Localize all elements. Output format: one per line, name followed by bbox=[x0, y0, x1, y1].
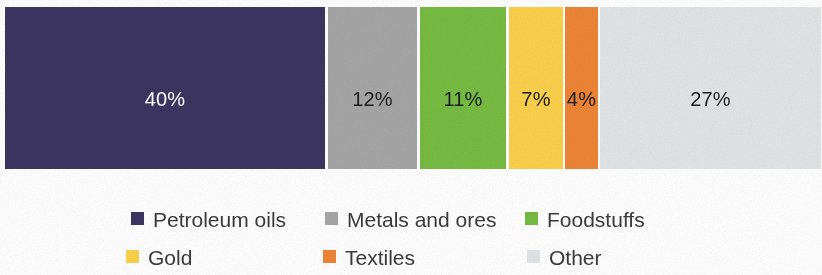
legend-swatch-icon bbox=[323, 250, 336, 263]
bar-segment-label: 40% bbox=[145, 89, 186, 109]
bar-segment-label: 11% bbox=[443, 89, 482, 109]
bar-segment-metals-and-ores[interactable]: 12% bbox=[328, 7, 420, 169]
legend-item-foodstuffs[interactable]: Foodstuffs bbox=[525, 200, 645, 236]
bar-segment-petroleum-oils[interactable]: 40% bbox=[5, 7, 328, 169]
legend-item-label: Gold bbox=[148, 247, 192, 268]
stacked-bar-chart: 40% 12% 11% 7% 4% 27% Petroleum oils bbox=[0, 0, 822, 275]
bar-segment-other[interactable]: 27% bbox=[600, 7, 821, 169]
bar-segment-foodstuffs[interactable]: 11% bbox=[420, 7, 509, 169]
legend-item-label: Textiles bbox=[345, 247, 415, 268]
bar-segment-gold[interactable]: 7% bbox=[509, 7, 565, 169]
bar-segment-label: 4% bbox=[567, 89, 596, 109]
legend-item-label: Metals and ores bbox=[347, 209, 496, 230]
legend-item-gold[interactable]: Gold bbox=[126, 238, 192, 274]
legend-swatch-icon bbox=[527, 250, 540, 263]
legend-item-petroleum-oils[interactable]: Petroleum oils bbox=[131, 200, 286, 236]
legend-item-label: Other bbox=[549, 247, 602, 268]
legend-swatch-icon bbox=[525, 212, 538, 225]
legend-swatch-icon bbox=[131, 212, 144, 225]
stacked-bar-track: 40% 12% 11% 7% 4% 27% bbox=[5, 7, 822, 169]
legend-item-textiles[interactable]: Textiles bbox=[323, 238, 415, 274]
legend-item-label: Petroleum oils bbox=[153, 209, 286, 230]
legend-item-other[interactable]: Other bbox=[527, 238, 602, 274]
legend-swatch-icon bbox=[325, 212, 338, 225]
bar-segment-label: 7% bbox=[521, 89, 550, 109]
legend-item-label: Foodstuffs bbox=[547, 209, 645, 230]
legend-item-metals-and-ores[interactable]: Metals and ores bbox=[325, 200, 496, 236]
chart-legend: Petroleum oils Metals and ores Foodstuff… bbox=[0, 200, 822, 275]
legend-row: Petroleum oils Metals and ores Foodstuff… bbox=[0, 200, 822, 236]
bar-segment-label: 27% bbox=[690, 89, 731, 109]
bar-segment-textiles[interactable]: 4% bbox=[565, 7, 600, 169]
bar-segment-label: 12% bbox=[352, 89, 393, 109]
legend-row: Gold Textiles Other bbox=[0, 238, 822, 274]
legend-swatch-icon bbox=[126, 250, 139, 263]
